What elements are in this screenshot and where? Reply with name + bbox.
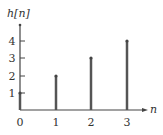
- y-ticks: [20, 41, 25, 93]
- y-axis-label: h[n]: [7, 7, 30, 20]
- x-tick-label: 1: [53, 116, 60, 129]
- y-tick-label: 3: [9, 52, 16, 65]
- stems: [18, 39, 128, 110]
- y-axis-arrow-icon: [19, 24, 22, 27]
- stem-plot: 1 2 3 4 0 1 2 3 h[n] n: [0, 0, 163, 135]
- x-axis-label: n: [150, 103, 157, 116]
- y-tick-label: 4: [9, 35, 16, 48]
- x-axis-arrow-icon: [142, 108, 148, 112]
- y-tick-label: 2: [9, 70, 16, 83]
- x-tick-label: 3: [124, 116, 131, 129]
- x-tick-label: 0: [17, 116, 24, 129]
- y-tick-label: 1: [9, 87, 16, 100]
- x-tick-label: 2: [88, 116, 95, 129]
